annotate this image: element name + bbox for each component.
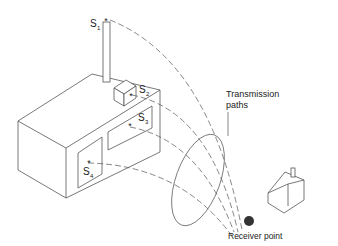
diagram-canvas: * S 1 * S 2 * S 3 * S 4 Transmission pat… [0,0,338,246]
s3-marker: * [128,121,132,131]
s3-label: S [138,112,145,123]
s4-label: S [83,166,90,177]
s2-marker: * [129,91,133,101]
house-icon [268,168,304,213]
noise-transmission-diagram: * S 1 * S 2 * S 3 * S 4 Transmission pat… [0,0,338,246]
receiver-label: Receiver point [228,231,283,241]
s1-label: S [90,18,97,29]
receiver-point-icon [244,216,254,226]
transmission-label: Transmission [226,89,279,99]
s1-marker: * [104,16,108,26]
s2-label: S [139,84,146,95]
s1-sub: 1 [97,25,101,31]
transmission-ellipse [161,127,235,232]
transmission-label-2: paths [226,100,249,110]
